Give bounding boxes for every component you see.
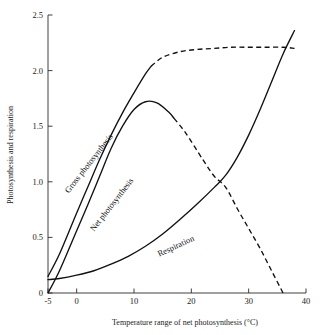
x-tick-label: 20: [187, 296, 196, 306]
axis-tick-labels: -501020304000.51.01.52.02.5: [32, 10, 310, 306]
axis-ticks: [48, 15, 306, 293]
x-tick-label: 30: [244, 296, 253, 306]
y-tick-label: 2.5: [32, 10, 43, 20]
curve-net-photosynthesis-dashed: [174, 118, 283, 293]
x-tick-label: 0: [75, 296, 79, 306]
x-tick-label: 10: [130, 296, 139, 306]
y-tick-label: 0: [39, 288, 43, 298]
curve-gross-photosynthesis-dashed: [151, 47, 294, 66]
y-tick-label: 2.0: [32, 66, 43, 76]
x-tick-label: -5: [44, 296, 51, 306]
photosynthesis-respiration-chart: -501020304000.51.01.52.02.5 Gross photos…: [0, 0, 329, 335]
y-axis-title: Photosynthesis and respiration: [6, 106, 15, 204]
x-tick-label: 40: [302, 296, 311, 306]
curve-annotations: Gross photosynthesisNet photosynthesisRe…: [62, 132, 196, 259]
curve-label-respiration: Respiration: [156, 233, 196, 259]
curve-label-net-photosynthesis: Net photosynthesis: [88, 176, 136, 233]
y-tick-label: 0.5: [32, 232, 43, 242]
y-tick-label: 1.0: [32, 177, 43, 187]
curve-gross-photosynthesis-solid: [48, 66, 151, 276]
chart-canvas: -501020304000.51.01.52.02.5 Gross photos…: [0, 0, 329, 335]
y-tick-label: 1.5: [32, 121, 43, 131]
x-axis-title: Temperature range of net photosynthesis …: [112, 318, 258, 327]
axes: [48, 15, 306, 293]
